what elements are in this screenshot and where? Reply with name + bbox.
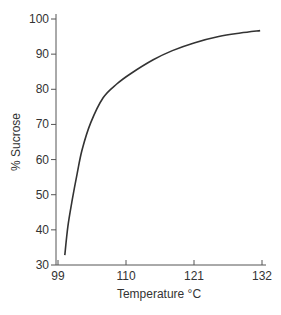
x-tick-label: 132 <box>252 269 272 283</box>
y-tick-label: 80 <box>36 82 50 96</box>
y-tick-label: 40 <box>36 223 50 237</box>
x-axis-label: Temperature °C <box>117 287 201 301</box>
y-tick-label: 30 <box>36 258 50 272</box>
x-tick-label: 99 <box>51 269 65 283</box>
data-line <box>65 31 260 256</box>
y-tick-label: 50 <box>36 188 50 202</box>
y-axis-label: % Sucrose <box>9 113 23 171</box>
axes <box>51 14 266 265</box>
chart-canvas: 3040506070809010099110121132 Temperature… <box>0 0 281 315</box>
x-tick-label: 121 <box>184 269 204 283</box>
y-tick-label: 60 <box>36 153 50 167</box>
y-tick-label: 100 <box>29 12 49 26</box>
x-tick-label: 110 <box>116 269 135 283</box>
sucrose-temperature-chart: 3040506070809010099110121132 Temperature… <box>0 0 281 315</box>
y-tick-label: 70 <box>36 117 50 131</box>
y-tick-label: 90 <box>36 47 50 61</box>
